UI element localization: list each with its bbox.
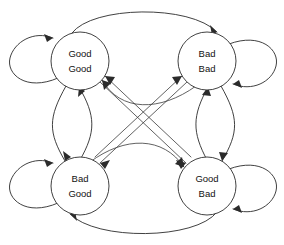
- arrowhead-shallow-lower: [175, 157, 184, 167]
- edge-good-bad-to-good-good-diagonal: [105, 76, 191, 157]
- node-circle-good-good[interactable]: [51, 32, 109, 90]
- edge-good-bad-to-bad-good-bottom: [70, 211, 217, 234]
- arrowhead-self-loop-good-bad: [233, 205, 242, 213]
- node-circle-bad-bad[interactable]: [178, 32, 236, 90]
- edge-bad-good-to-good-good-left: [78, 87, 92, 160]
- node-good-bad[interactable]: Good Bad: [178, 157, 236, 215]
- edge-good-good-to-bad-bad-top: [72, 12, 217, 35]
- arrowhead-right-down: [219, 152, 228, 161]
- edge-good-bad-to-bad-bad-right: [196, 87, 211, 160]
- state-diagram-canvas: Good Good Bad Bad Bad Good Good Bad: [0, 0, 284, 245]
- arrowhead-self-loop-bad-good: [44, 159, 53, 167]
- edge-good-good-to-bad-good-left: [52, 86, 71, 161]
- node-bad-good[interactable]: Bad Good: [51, 157, 109, 215]
- edge-bad-bad-to-good-bad-right: [219, 86, 235, 161]
- node-circle-good-bad[interactable]: [178, 157, 236, 215]
- node-bad-bad[interactable]: Bad Bad: [178, 32, 236, 90]
- arrowhead-self-loop-bad-bad: [233, 80, 242, 88]
- arrowhead-self-loop-good-good: [44, 34, 53, 42]
- node-good-good[interactable]: Good Good: [51, 32, 109, 90]
- node-circle-bad-good[interactable]: [51, 157, 109, 215]
- state-transition-diagram: Good Good Bad Bad Bad Good Good Bad: [0, 0, 284, 245]
- edge-bad-bad-to-good-good-shallow: [102, 80, 196, 105]
